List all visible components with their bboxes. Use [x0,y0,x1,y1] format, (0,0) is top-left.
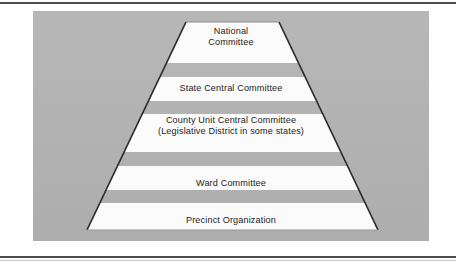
level-label-ward: Ward Committee [33,178,429,189]
level-label-national: National Committee [33,26,429,48]
level-label-precinct: Precinct Organization [33,215,429,226]
pyramid-labels: National Committee State Central Committ… [33,11,429,241]
level-label-precinct-line1: Precinct Organization [186,215,276,225]
level-label-national-line1: National [214,26,249,36]
page-bottom-rule-secondary [0,260,456,261]
level-label-national-line2: Committee [33,37,429,48]
level-label-state: State Central Committee [33,83,429,94]
level-label-county-line1: County Unit Central Committee [166,115,296,125]
figure-page: National Committee State Central Committ… [0,0,456,267]
level-label-county: County Unit Central Committee (Legislati… [33,115,429,137]
page-top-rule [0,2,456,4]
level-label-county-line2: (Legislative District in some states) [33,126,429,137]
level-label-ward-line1: Ward Committee [196,178,266,188]
page-bottom-rule [0,256,456,258]
level-label-state-line1: State Central Committee [179,83,282,93]
